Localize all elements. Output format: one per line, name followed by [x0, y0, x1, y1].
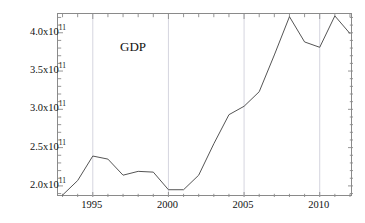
plot-canvas [58, 14, 353, 197]
y-tick-label-0: 2.0x1011 [30, 180, 66, 191]
y-tick-label-1: 2.5x1011 [30, 141, 66, 152]
x-tick-label-3: 2010 [308, 200, 329, 211]
y-axis-title-gdp: GDP [120, 40, 146, 53]
gdp-data-line [63, 16, 350, 195]
gdp-time-chart-figure: GDP time 2.0x10112.5x10113.0x10113.5x101… [0, 0, 365, 223]
x-tick-label-0: 1995 [81, 200, 102, 211]
y-tick-label-4: 4.0x1011 [30, 27, 66, 38]
y-tick-label-3: 3.5x1011 [30, 65, 66, 76]
axis-ticks [58, 14, 353, 197]
y-tick-label-2: 3.0x1011 [30, 103, 66, 114]
plot-area: GDP time [57, 13, 352, 196]
x-tick-label-2: 2005 [233, 200, 254, 211]
x-tick-label-1: 2000 [157, 200, 178, 211]
